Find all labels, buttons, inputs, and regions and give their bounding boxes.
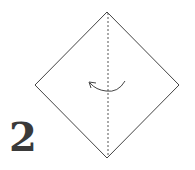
paper-square-diamond xyxy=(35,12,179,158)
step-number: 2 xyxy=(9,117,37,157)
